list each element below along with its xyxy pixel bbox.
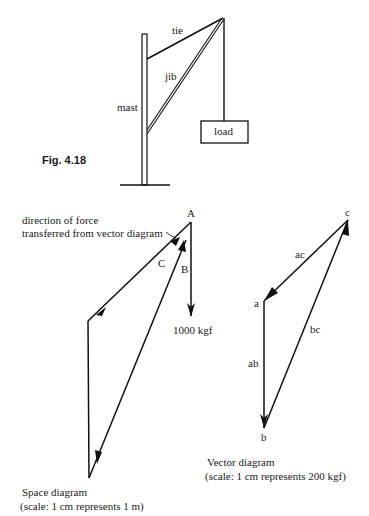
load-label: load xyxy=(214,125,233,137)
mast xyxy=(142,34,147,185)
force-label: 1000 kgf xyxy=(173,324,212,336)
vector-diagram-scale: (scale: 1 cm represents 200 kgf) xyxy=(205,470,346,482)
space-diagram-caption: Space diagram xyxy=(22,486,87,498)
mast-line xyxy=(88,321,89,478)
jib-label: jib xyxy=(165,70,177,82)
diagram-canvas xyxy=(0,0,369,516)
vector-bc xyxy=(264,220,348,428)
crane-drawing xyxy=(120,18,248,185)
point-A-label: A xyxy=(187,207,195,219)
jib-edge-1 xyxy=(147,18,222,130)
point-b-label: b xyxy=(261,431,267,443)
vector-ab-label: ab xyxy=(248,357,258,369)
vector-ac xyxy=(264,220,348,301)
point-a-label: a xyxy=(254,297,259,309)
point-c-label: c xyxy=(345,206,350,218)
jib-edge-2 xyxy=(147,19,224,134)
vector-diagram-caption: Vector diagram xyxy=(207,456,275,468)
annotation-line-2: transferred from vector diagram xyxy=(22,227,163,239)
figure-label: Fig. 4.18 xyxy=(42,154,86,166)
annotation-leader xyxy=(166,232,176,238)
space-diagram xyxy=(88,222,195,478)
vector-bc-label: bc xyxy=(310,323,320,335)
space-diagram-scale: (scale: 1 cm represents 1 m) xyxy=(20,500,144,512)
member-C-label: C xyxy=(158,257,165,269)
member-B-label: B xyxy=(181,263,188,275)
tie-label: tie xyxy=(172,24,183,36)
mast-label: mast xyxy=(117,101,138,113)
member-B-line xyxy=(89,240,186,478)
annotation-line-1: direction of force xyxy=(22,214,98,226)
vector-ac-label: ac xyxy=(295,248,305,260)
